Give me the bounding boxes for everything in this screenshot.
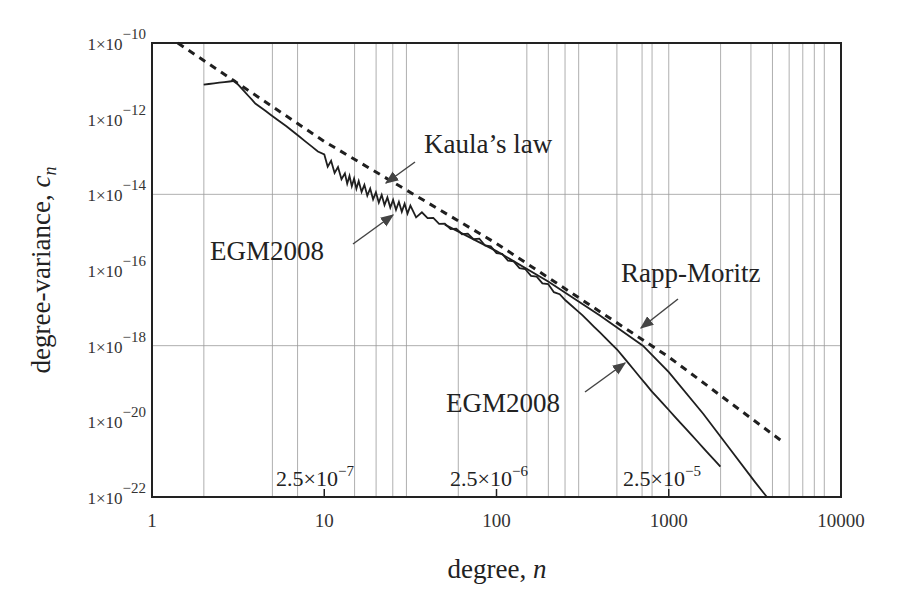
kaula-arrow-icon bbox=[386, 162, 415, 183]
x-tick-label: 10000 bbox=[817, 510, 865, 531]
y-tick-label: 1×10−22 bbox=[87, 480, 146, 508]
y-tick-labels: 1×10−101×10−121×10−141×10−161×10−181×10−… bbox=[87, 26, 146, 508]
y-axis-title: degree-variance, cn bbox=[26, 167, 60, 374]
degree-variance-chart: 1×10−101×10−121×10−141×10−161×10−181×10−… bbox=[0, 0, 897, 600]
egm2008-upper-label: EGM2008 bbox=[210, 236, 324, 266]
resolution-label-3: 2.5×10−5 bbox=[623, 463, 701, 491]
y-tick-label: 1×10−12 bbox=[87, 102, 146, 130]
x-tick-label: 100 bbox=[482, 510, 511, 531]
y-tick-label: 1×10−16 bbox=[87, 253, 146, 281]
x-tick-labels: 110100100010000 bbox=[147, 510, 865, 531]
egm2008-lower-label: EGM2008 bbox=[446, 388, 560, 418]
kaula-law-label: Kaula’s law bbox=[424, 129, 553, 159]
y-tick-label: 1×10−18 bbox=[87, 329, 146, 357]
egm2008-upper-arrow-icon bbox=[353, 215, 393, 244]
rapp-moritz-label: Rapp-Moritz bbox=[621, 258, 760, 288]
x-tick-label: 1000 bbox=[650, 510, 688, 531]
y-tick-label: 1×10−10 bbox=[87, 26, 146, 54]
y-tick-label: 1×10−20 bbox=[87, 404, 146, 432]
resolution-label-2: 2.5×10−6 bbox=[450, 463, 528, 491]
x-tick-label: 1 bbox=[147, 510, 157, 531]
resolution-label-1: 2.5×10−7 bbox=[276, 463, 354, 491]
y-tick-label: 1×10−14 bbox=[87, 177, 146, 205]
x-tick-label: 10 bbox=[315, 510, 334, 531]
x-axis-title: degree, n bbox=[448, 554, 547, 584]
egm2008-lower-arrow-icon bbox=[585, 363, 625, 392]
rapp-moritz-arrow-icon bbox=[641, 299, 678, 328]
